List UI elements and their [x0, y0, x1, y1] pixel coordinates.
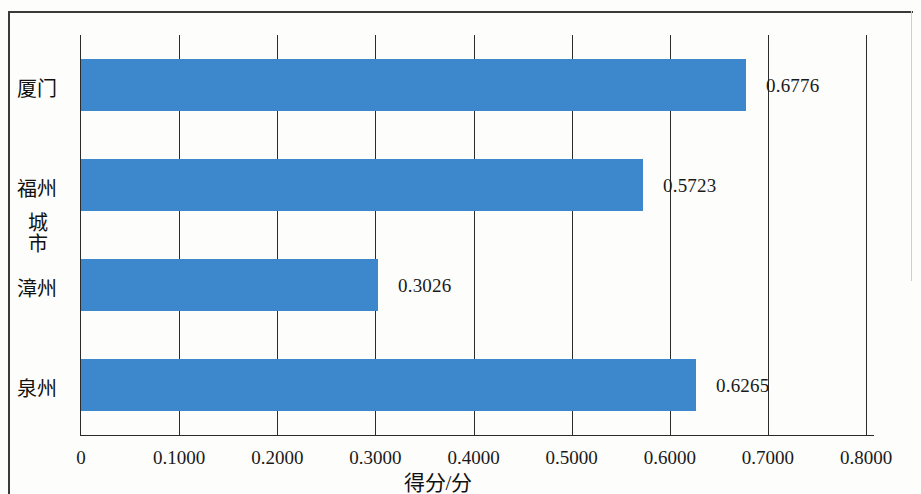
bar-value-xiamen: 0.6776 [766, 75, 819, 97]
x-axis-line [80, 435, 874, 436]
x-axis-title: 得分/分 [404, 466, 473, 494]
bar-quanzhou [81, 359, 696, 411]
bar-zhangzhou [81, 259, 378, 311]
figure-frame-right-border [911, 11, 912, 281]
bar-xiamen [81, 59, 746, 111]
plot-area: 0.6776 0.5723 0.3026 0.6265 厦门 福州 漳州 泉州 … [81, 35, 866, 435]
bar-value-zhangzhou: 0.3026 [398, 275, 451, 297]
y-axis-title: 城市 [22, 212, 51, 254]
category-label-fuzhou: 福州 [17, 173, 57, 202]
bar-fuzhou [81, 159, 643, 211]
x-axis-title-wrapper: 得分/分 [0, 466, 921, 494]
category-label-zhangzhou: 漳州 [17, 273, 57, 302]
bar-value-quanzhou: 0.6265 [716, 375, 769, 397]
bar-value-fuzhou: 0.5723 [663, 175, 716, 197]
category-label-xiamen: 厦门 [17, 73, 57, 102]
figure-frame-top-border [8, 11, 913, 13]
chart-figure: 城市 0.6776 0.5723 0.3026 0.6265 厦门 福州 漳州 … [0, 0, 921, 494]
category-label-quanzhou: 泉州 [17, 373, 57, 402]
gridline-0.8000 [866, 35, 867, 435]
figure-frame-left-border [8, 11, 10, 494]
